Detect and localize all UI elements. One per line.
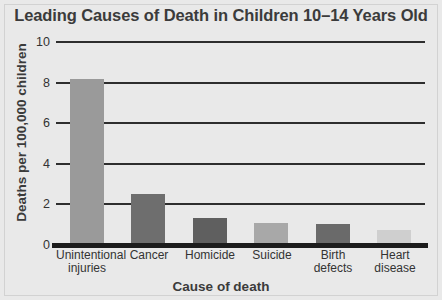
bar	[254, 223, 288, 245]
chart-title: Leading Causes of Death in Children 10–1…	[0, 6, 442, 25]
x-tick-label: Unintentionalinjuries	[56, 249, 118, 275]
y-tick-label-8: 8	[22, 76, 50, 90]
y-tick-label-4: 4	[22, 157, 50, 171]
gridline-4	[56, 163, 425, 165]
x-axis-tick-labels: UnintentionalinjuriesCancerHomicideSuici…	[56, 249, 425, 283]
x-tick-label-line: Suicide	[241, 249, 303, 262]
gridline-6	[56, 122, 425, 124]
y-tick-label-0: 0	[22, 238, 50, 252]
x-axis-title: Cause of death	[0, 279, 442, 294]
bar	[70, 79, 104, 245]
x-tick-label-line: Cancer	[118, 249, 180, 262]
x-tick-label: Birthdefects	[302, 249, 364, 275]
gridline-8	[56, 82, 425, 84]
plot-area	[56, 42, 425, 245]
bar	[316, 224, 350, 245]
y-axis-tick-labels: 0246810	[14, 42, 50, 245]
x-tick-label: Homicide	[179, 249, 241, 262]
x-tick-label: Heartdisease	[364, 249, 426, 275]
x-tick-label-line: defects	[302, 262, 364, 275]
x-tick-label-line: Homicide	[179, 249, 241, 262]
y-tick-label-10: 10	[22, 35, 50, 49]
x-tick-label-line: disease	[364, 262, 426, 275]
y-tick-label-6: 6	[22, 116, 50, 130]
x-tick-label: Cancer	[118, 249, 180, 262]
gridline-10	[56, 41, 425, 43]
chart-figure: Leading Causes of Death in Children 10–1…	[0, 0, 442, 300]
x-tick-label: Suicide	[241, 249, 303, 262]
y-tick-label-2: 2	[22, 197, 50, 211]
bar	[131, 194, 165, 245]
x-tick-label-line: injuries	[56, 262, 118, 275]
bar	[193, 218, 227, 245]
gridline-2	[56, 203, 425, 205]
